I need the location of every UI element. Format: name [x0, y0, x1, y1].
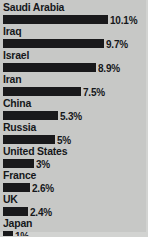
bar-category-label: Japan [3, 218, 139, 229]
bar-value-label: 5% [57, 135, 71, 145]
bar-row: Israel 8.9% [3, 50, 146, 74]
bar-fill [3, 231, 13, 236]
bar-line: 9.7% [3, 38, 146, 49]
bar-fill [3, 15, 108, 24]
bar-row: Iraq 9.7% [3, 26, 146, 50]
bar-value-label: 2.4% [30, 207, 52, 217]
bar-line: 10.1% [3, 14, 146, 25]
bar-value-label: 7.5% [83, 87, 105, 97]
bar-line: 1% [3, 230, 146, 236]
bar-fill [3, 111, 58, 120]
bar-line: 2.6% [3, 182, 146, 193]
bar-category-label: Saudi Arabia [3, 2, 139, 13]
bar-row: Japan 1% [3, 218, 146, 236]
bar-value-label: 9.7% [106, 39, 128, 49]
bar-value-label: 3% [36, 159, 50, 169]
bar-row: Russia 5% [3, 122, 146, 146]
bar-value-label: 8.9% [98, 63, 120, 73]
bar-category-label: Russia [3, 122, 139, 133]
bar-fill [3, 159, 34, 168]
bar-value-label: 1% [15, 231, 29, 237]
bar-row: Iran 7.5% [3, 74, 146, 98]
bar-category-label: France [3, 170, 139, 181]
bar-row: United States 3% [3, 146, 146, 170]
bar-value-label: 2.6% [32, 183, 54, 193]
bar-row: UK 2.4% [3, 194, 146, 218]
bar-category-label: Iran [3, 74, 139, 85]
bar-value-label: 5.3% [60, 111, 82, 121]
bar-line: 2.4% [3, 206, 146, 217]
bar-line: 8.9% [3, 62, 146, 73]
bar-line: 5.3% [3, 110, 146, 121]
bar-row: Saudi Arabia 10.1% [3, 2, 146, 26]
bar-row: France 2.6% [3, 170, 146, 194]
bar-value-label: 10.1% [110, 15, 137, 25]
bar-row: China 5.3% [3, 98, 146, 122]
bar-chart: Saudi Arabia 10.1% Iraq 9.7% Israel 8.9%… [0, 0, 148, 236]
bar-line: 3% [3, 158, 146, 169]
bar-fill [3, 87, 81, 96]
bar-category-label: United States [3, 146, 139, 157]
bar-category-label: China [3, 98, 139, 109]
bar-fill [3, 39, 104, 48]
bar-line: 5% [3, 134, 146, 145]
bar-category-label: Israel [3, 50, 139, 61]
bar-category-label: UK [3, 194, 139, 205]
bar-fill [3, 63, 96, 72]
bar-fill [3, 135, 55, 144]
bar-fill [3, 207, 28, 216]
bar-category-label: Iraq [3, 26, 139, 37]
bar-fill [3, 183, 30, 192]
bar-line: 7.5% [3, 86, 146, 97]
